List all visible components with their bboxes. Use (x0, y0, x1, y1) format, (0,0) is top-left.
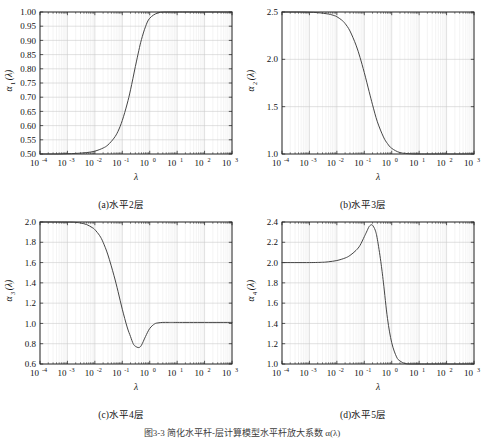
svg-text:1.4: 1.4 (267, 319, 279, 329)
svg-text:0.65: 0.65 (20, 107, 36, 117)
svg-text:α: α (246, 296, 256, 302)
svg-text:1: 1 (422, 156, 425, 163)
svg-text:2: 2 (450, 366, 453, 373)
svg-text:10: 10 (57, 368, 67, 378)
svg-text:10: 10 (299, 158, 309, 168)
svg-text:0.90: 0.90 (20, 36, 36, 46)
svg-text:λ: λ (375, 172, 380, 182)
svg-text:2.2: 2.2 (267, 237, 278, 247)
svg-text:1: 1 (180, 366, 183, 373)
svg-text:10: 10 (409, 368, 419, 378)
svg-text:α: α (4, 296, 14, 302)
svg-text:0: 0 (153, 156, 156, 163)
svg-text:0.95: 0.95 (20, 21, 36, 31)
svg-text:-3: -3 (311, 156, 316, 163)
svg-text:1.2: 1.2 (25, 298, 36, 308)
svg-text:-3: -3 (311, 366, 316, 373)
svg-text:(λ): (λ) (246, 70, 257, 80)
svg-text:1: 1 (9, 82, 16, 85)
chart-panel-d: 1.01.21.41.61.82.02.22.410-410-310-210-1… (242, 212, 484, 422)
svg-text:4: 4 (251, 292, 258, 295)
svg-text:10: 10 (437, 368, 447, 378)
chart-panel-a: 0.500.550.600.650.700.750.800.850.900.95… (0, 2, 242, 212)
panel-caption-a: (a)水平2层 (0, 200, 242, 211)
svg-text:10: 10 (140, 368, 150, 378)
svg-text:1.0: 1.0 (25, 319, 37, 329)
svg-text:0.80: 0.80 (20, 64, 36, 74)
svg-text:1: 1 (180, 156, 183, 163)
plot-b: 1.01.52.02.510-410-310-210-1100101102103… (242, 2, 484, 212)
chart-panel-b: 1.01.52.02.510-410-310-210-1100101102103… (242, 2, 484, 212)
plot-c: 0.60.81.01.21.41.61.82.010-410-310-210-1… (0, 212, 242, 422)
svg-text:10: 10 (464, 368, 474, 378)
svg-text:2.0: 2.0 (25, 217, 37, 227)
svg-text:0.60: 0.60 (20, 121, 36, 131)
figure-caption: 图3-3 简化水平杆-层计算模型水平杆放大系数 α(λ) (0, 428, 484, 440)
svg-text:2: 2 (208, 156, 211, 163)
svg-text:10: 10 (327, 158, 337, 168)
svg-text:10: 10 (382, 368, 392, 378)
svg-text:2.5: 2.5 (267, 7, 279, 17)
svg-text:10: 10 (195, 368, 205, 378)
svg-text:(λ): (λ) (246, 280, 257, 290)
svg-text:3: 3 (235, 156, 238, 163)
svg-text:10: 10 (464, 158, 474, 168)
panel-caption-b: (b)水平3层 (242, 200, 484, 211)
svg-text:10: 10 (85, 368, 95, 378)
svg-text:10: 10 (30, 158, 40, 168)
svg-text:10: 10 (222, 368, 232, 378)
svg-text:-4: -4 (42, 366, 47, 373)
svg-text:2: 2 (450, 156, 453, 163)
panel-caption-c: (c)水平4层 (0, 410, 242, 421)
plot-a: 0.500.550.600.650.700.750.800.850.900.95… (0, 2, 242, 212)
svg-text:10: 10 (272, 368, 282, 378)
svg-text:0.55: 0.55 (20, 135, 36, 145)
svg-text:1.6: 1.6 (25, 258, 37, 268)
svg-text:3: 3 (477, 156, 480, 163)
svg-text:0.75: 0.75 (20, 78, 36, 88)
svg-text:-2: -2 (339, 156, 344, 163)
chart-panel-c: 0.60.81.01.21.41.61.82.010-410-310-210-1… (0, 212, 242, 422)
svg-text:10: 10 (167, 368, 177, 378)
svg-text:10: 10 (437, 158, 447, 168)
svg-text:-2: -2 (339, 366, 344, 373)
svg-text:10: 10 (354, 158, 364, 168)
svg-text:(λ): (λ) (4, 280, 15, 290)
svg-text:1: 1 (422, 366, 425, 373)
svg-text:10: 10 (195, 158, 205, 168)
svg-text:(λ): (λ) (4, 70, 15, 80)
svg-text:-1: -1 (366, 156, 371, 163)
svg-text:1.6: 1.6 (267, 298, 279, 308)
svg-text:-1: -1 (366, 366, 371, 373)
svg-text:10: 10 (112, 158, 122, 168)
figure-container: 0.500.550.600.650.700.750.800.850.900.95… (0, 0, 484, 442)
svg-text:-4: -4 (42, 156, 47, 163)
svg-text:10: 10 (222, 158, 232, 168)
svg-text:1.8: 1.8 (267, 278, 279, 288)
svg-text:0: 0 (395, 366, 398, 373)
svg-text:3: 3 (477, 366, 480, 373)
svg-text:1.00: 1.00 (20, 7, 36, 17)
svg-text:0: 0 (153, 366, 156, 373)
svg-text:1.5: 1.5 (267, 102, 279, 112)
svg-text:-1: -1 (124, 156, 129, 163)
svg-text:λ: λ (375, 382, 380, 392)
svg-text:-3: -3 (69, 156, 74, 163)
svg-text:0: 0 (395, 156, 398, 163)
svg-text:λ: λ (133, 172, 138, 182)
svg-text:2: 2 (251, 82, 258, 85)
svg-text:-4: -4 (284, 156, 289, 163)
svg-text:10: 10 (272, 158, 282, 168)
svg-text:10: 10 (85, 158, 95, 168)
svg-text:10: 10 (30, 368, 40, 378)
svg-text:-2: -2 (97, 156, 102, 163)
svg-text:10: 10 (140, 158, 150, 168)
svg-text:10: 10 (327, 368, 337, 378)
svg-text:-4: -4 (284, 366, 289, 373)
plot-d: 1.01.21.41.61.82.02.22.410-410-310-210-1… (242, 212, 484, 422)
svg-text:3: 3 (235, 366, 238, 373)
svg-text:10: 10 (167, 158, 177, 168)
svg-text:10: 10 (382, 158, 392, 168)
svg-text:0.8: 0.8 (25, 339, 37, 349)
svg-text:10: 10 (112, 368, 122, 378)
